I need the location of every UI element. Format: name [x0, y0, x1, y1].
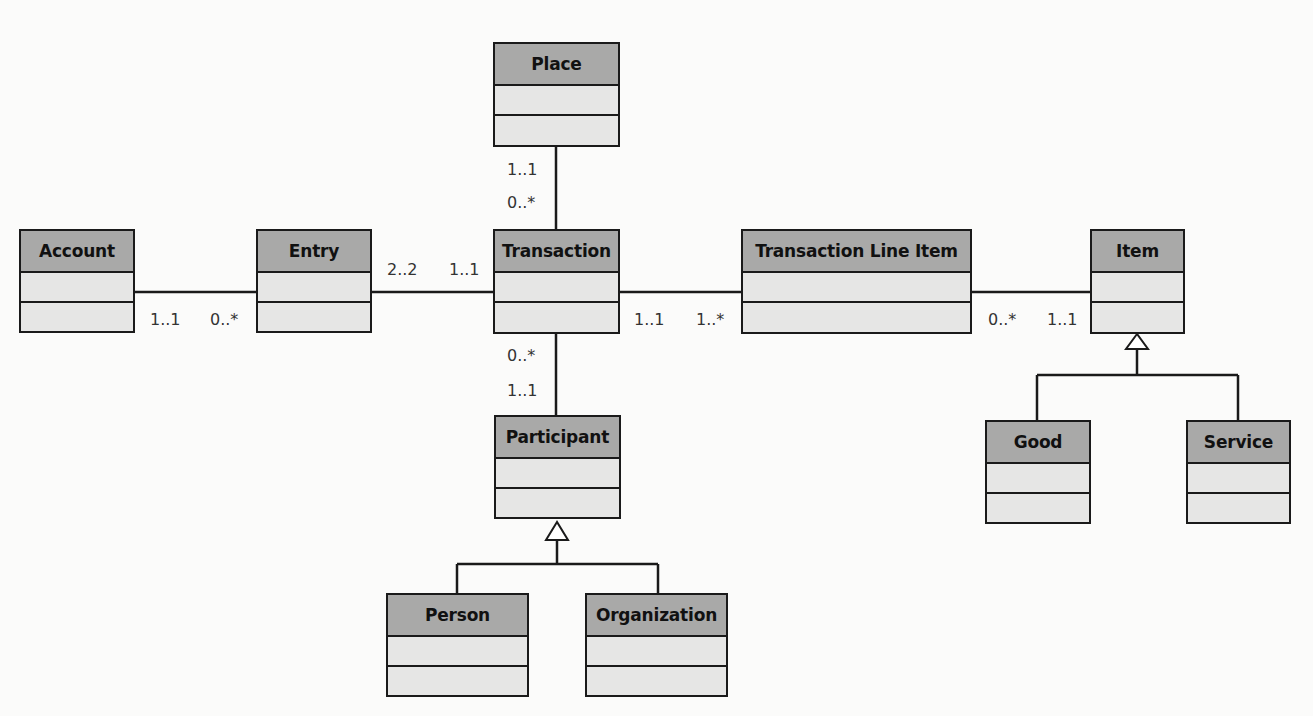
attributes-compartment [495, 86, 618, 116]
operations-compartment [258, 303, 370, 331]
operations-compartment [496, 489, 619, 517]
multiplicity-line-item-from-transaction: 1..* [696, 310, 724, 329]
class-good[interactable]: Good [985, 420, 1091, 524]
class-item[interactable]: Item [1090, 229, 1185, 334]
class-person[interactable]: Person [386, 593, 529, 697]
attributes-compartment [1188, 464, 1289, 494]
class-name: Transaction Line Item [743, 231, 970, 273]
multiplicity-participant-from-transaction: 1..1 [507, 381, 538, 400]
uml-diagram-canvas: Account Entry Place Transaction Transact… [0, 0, 1313, 716]
class-name: Organization [587, 595, 726, 637]
multiplicity-transaction-to-line-item: 1..1 [634, 310, 665, 329]
class-transaction-line-item[interactable]: Transaction Line Item [741, 229, 972, 334]
multiplicity-transaction-from-entry: 1..1 [449, 260, 480, 279]
class-name: Transaction [495, 231, 618, 273]
class-participant[interactable]: Participant [494, 415, 621, 519]
operations-compartment [495, 303, 618, 332]
class-name: Participant [496, 417, 619, 459]
generalization-arrow-item [1126, 334, 1148, 349]
class-name: Entry [258, 231, 370, 273]
class-name: Service [1188, 422, 1289, 464]
multiplicity-entry-side: 0..* [210, 310, 238, 329]
class-name: Account [21, 231, 133, 273]
operations-compartment [743, 303, 970, 332]
operations-compartment [21, 303, 133, 331]
multiplicity-entry-to-transaction: 2..2 [387, 260, 418, 279]
attributes-compartment [987, 464, 1089, 494]
attributes-compartment [587, 637, 726, 667]
multiplicity-line-item-to-item: 0..* [988, 310, 1016, 329]
class-account[interactable]: Account [19, 229, 135, 333]
operations-compartment [495, 116, 618, 145]
attributes-compartment [496, 459, 619, 489]
class-name: Item [1092, 231, 1183, 273]
class-service[interactable]: Service [1186, 420, 1291, 524]
multiplicity-place-side: 1..1 [507, 160, 538, 179]
multiplicity-account-side: 1..1 [150, 310, 181, 329]
multiplicity-item-from-line-item: 1..1 [1047, 310, 1078, 329]
class-organization[interactable]: Organization [585, 593, 728, 697]
attributes-compartment [21, 273, 133, 303]
operations-compartment [388, 667, 527, 695]
class-name: Good [987, 422, 1089, 464]
attributes-compartment [743, 273, 970, 303]
attributes-compartment [258, 273, 370, 303]
class-name: Person [388, 595, 527, 637]
multiplicity-transaction-to-participant: 0..* [507, 346, 535, 365]
class-name: Place [495, 44, 618, 86]
class-entry[interactable]: Entry [256, 229, 372, 333]
operations-compartment [987, 494, 1089, 522]
attributes-compartment [495, 273, 618, 303]
class-place[interactable]: Place [493, 42, 620, 147]
operations-compartment [1188, 494, 1289, 522]
generalization-arrow-participant [546, 522, 568, 540]
attributes-compartment [1092, 273, 1183, 303]
operations-compartment [587, 667, 726, 695]
class-transaction[interactable]: Transaction [493, 229, 620, 334]
multiplicity-transaction-from-place: 0..* [507, 193, 535, 212]
operations-compartment [1092, 303, 1183, 332]
attributes-compartment [388, 637, 527, 667]
